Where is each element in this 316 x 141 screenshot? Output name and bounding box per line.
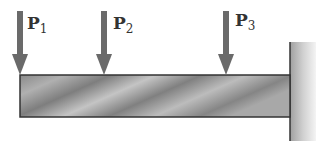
load-label-p3: P3 xyxy=(235,10,255,33)
beam xyxy=(20,75,290,117)
load-arrow-p2 xyxy=(96,11,112,75)
load-arrow-p1 xyxy=(12,11,28,75)
load-label-p2: P2 xyxy=(113,13,133,36)
load-label-p1: P1 xyxy=(27,13,47,36)
load-arrow-p3 xyxy=(218,11,234,75)
fixed-support-wall xyxy=(290,42,316,141)
